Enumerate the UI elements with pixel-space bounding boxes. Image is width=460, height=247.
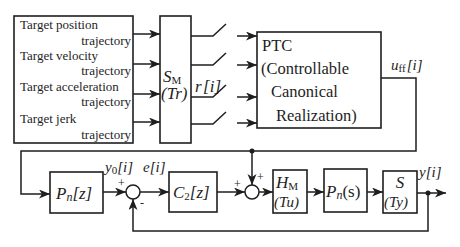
sum-junction-2: + +: [234, 170, 264, 199]
source-to-sampler-arrows: [133, 34, 160, 122]
sum2-circle: [245, 185, 259, 199]
pn-z-block: Pn[z]: [50, 172, 103, 213]
sampler-period-label: (Tr): [161, 84, 188, 103]
error-label: e[i]: [143, 159, 166, 175]
hold-period-label: (Tu): [274, 194, 299, 211]
ptc-line-4: Realization): [276, 106, 357, 125]
y0-label: y0[i]: [103, 159, 133, 176]
hold-block: HM (Tu): [273, 170, 307, 213]
ptc-line-3: Canonical: [271, 82, 338, 101]
c2-z-block: C2[z]: [169, 172, 217, 212]
switch-jerk: [191, 112, 226, 124]
sum2-plus-top-sign: +: [257, 170, 264, 184]
pn-z-label: Pn[z]: [55, 184, 92, 204]
control-block-diagram: Target position trajectory Target veloci…: [0, 0, 460, 247]
output-sampler-block: S (Ty): [383, 171, 417, 213]
trajectory-suffix-acceleration: trajectory: [81, 94, 131, 109]
switch-position: [191, 24, 226, 36]
output-label: y[i]: [417, 164, 442, 180]
sum1-circle: [126, 185, 140, 199]
trajectory-suffix-position: trajectory: [81, 33, 131, 48]
trajectory-suffix-jerk: trajectory: [81, 127, 131, 142]
output-sampler-period-label: (Ty): [384, 194, 408, 211]
switch-velocity: [191, 53, 226, 65]
trajectory-title-position: Target position: [20, 17, 98, 32]
target-trajectory-block: Target position trajectory Target veloci…: [14, 16, 133, 143]
ptc-input-arrows: [237, 36, 257, 123]
sum1-plus-sign: +: [118, 176, 125, 190]
trajectory-title-acceleration: Target acceleration: [20, 79, 119, 94]
sum1-minus-sign: -: [140, 196, 144, 210]
sum-junction-1: + -: [118, 176, 144, 210]
plant-block: Pn(s): [324, 169, 367, 212]
sum2-plus-left-sign: +: [234, 177, 241, 191]
plant-label: Pn(s): [325, 182, 360, 202]
trajectory-title-velocity: Target velocity: [20, 48, 98, 63]
output-sampler-label: S: [396, 173, 405, 192]
ptc-line-2: (Controllable: [261, 59, 349, 78]
trajectory-suffix-velocity: trajectory: [81, 63, 131, 78]
trajectory-title-jerk: Target jerk: [20, 111, 77, 126]
ptc-block: PTC (Controllable Canonical Realization): [257, 32, 381, 128]
c2-z-label: C2[z]: [173, 183, 210, 202]
switch-signal-label: r [i]: [195, 77, 221, 96]
ptc-title: PTC: [262, 36, 292, 55]
sampling-switches: r [i]: [191, 24, 226, 124]
uff-label: uff[i]: [391, 57, 423, 74]
sampler-block: SM (Tr): [160, 16, 191, 143]
